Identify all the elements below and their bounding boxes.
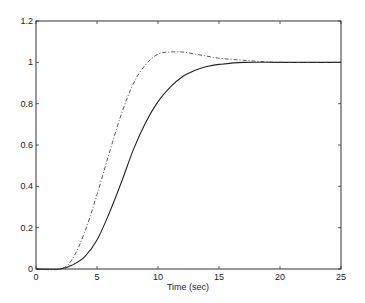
y-tick-label: 1 (28, 57, 33, 67)
x-tick-label: 10 (153, 272, 163, 282)
y-tick-label: 0.4 (20, 181, 33, 191)
y-tick-label: 1.2 (20, 16, 33, 26)
y-tick-label: 0 (28, 264, 33, 274)
x-tick-label: 20 (275, 272, 285, 282)
chart-background (0, 0, 365, 303)
x-axis-label: Time (sec) (167, 282, 209, 292)
step-response-chart: 051015202500.20.40.60.811.2 Time (sec) (0, 0, 365, 303)
x-tick-label: 15 (214, 272, 224, 282)
x-tick-label: 25 (336, 272, 346, 282)
x-tick-label: 0 (33, 272, 38, 282)
y-tick-label: 0.8 (20, 99, 33, 109)
x-tick-label: 5 (94, 272, 99, 282)
y-tick-label: 0.2 (20, 223, 33, 233)
y-tick-label: 0.6 (20, 140, 33, 150)
